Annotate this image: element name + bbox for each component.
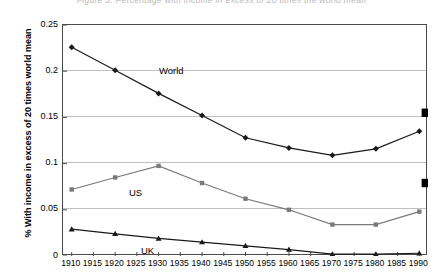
data-point-marker bbox=[112, 67, 118, 73]
data-point-marker bbox=[417, 209, 421, 213]
data-point-marker bbox=[416, 128, 422, 134]
projection-marker-world bbox=[422, 109, 428, 117]
y-tick-label: 0.2 bbox=[24, 65, 58, 75]
data-point-marker bbox=[199, 113, 205, 119]
y-axis-tick-labels: 0.25 0.2 0.15 0.1 0.05 0 bbox=[20, 0, 58, 278]
projection-marker-us bbox=[422, 179, 428, 187]
data-point-marker bbox=[69, 226, 75, 231]
data-point-marker bbox=[200, 181, 204, 185]
data-point-marker bbox=[156, 164, 160, 168]
series-line-uk bbox=[72, 229, 420, 254]
data-point-marker bbox=[156, 90, 162, 96]
y-tick-label: 0.25 bbox=[24, 19, 58, 29]
series-label-us: US bbox=[129, 187, 142, 198]
series-line-us bbox=[72, 166, 420, 225]
data-point-marker bbox=[374, 222, 378, 226]
y-tick-label: 0.15 bbox=[24, 111, 58, 121]
y-tick-label: 0.05 bbox=[24, 203, 58, 213]
data-point-marker bbox=[243, 197, 247, 201]
y-tick-label: 0.1 bbox=[24, 157, 58, 167]
plot-area: World US UK bbox=[62, 24, 427, 255]
data-point-marker bbox=[330, 222, 334, 226]
series-label-uk: UK bbox=[141, 245, 154, 256]
data-point-marker bbox=[373, 146, 379, 152]
data-point-marker bbox=[69, 44, 75, 50]
x-axis-tick-labels: 1910191519201925193019351940194519501955… bbox=[62, 258, 427, 274]
data-point-marker bbox=[69, 187, 73, 191]
chart-figure: Figure 3. Percentage with income in exce… bbox=[0, 0, 443, 278]
x-tick-label: 1990 bbox=[403, 258, 433, 268]
data-point-marker bbox=[287, 208, 291, 212]
y-tick-label: 0 bbox=[24, 250, 58, 260]
data-point-marker bbox=[113, 175, 117, 179]
data-point-marker bbox=[243, 135, 249, 141]
data-point-marker bbox=[286, 145, 292, 151]
data-point-marker bbox=[329, 152, 335, 158]
series-plot bbox=[63, 25, 428, 256]
series-label-world: World bbox=[159, 65, 184, 76]
figure-caption-fragment: Figure 3. Percentage with income in exce… bbox=[0, 0, 443, 5]
